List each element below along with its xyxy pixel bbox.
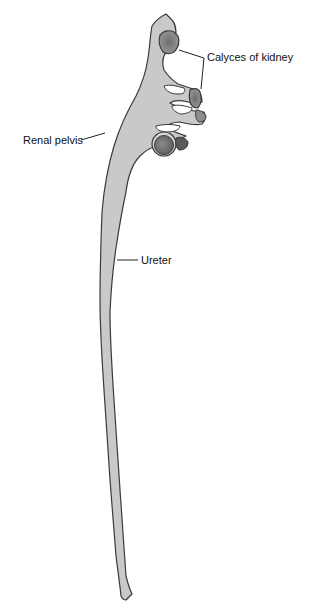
- label-calyces-of-kidney: Calyces of kidney: [207, 52, 293, 63]
- branch-gap-3: [156, 125, 180, 133]
- upper-calyx: [159, 31, 179, 54]
- lower-calyx-papilla: [176, 137, 188, 150]
- calyces-leader-lower: [201, 58, 204, 89]
- label-renal-pelvis: Renal pelvis: [23, 135, 83, 146]
- urinary-tract-diagram: [0, 0, 313, 611]
- renal-pelvis-leader: [81, 133, 105, 140]
- lower-calyx-cup: [155, 136, 174, 155]
- calyces-leader-upper: [179, 50, 204, 58]
- label-ureter: Ureter: [141, 255, 172, 266]
- middle-calyx: [189, 89, 201, 108]
